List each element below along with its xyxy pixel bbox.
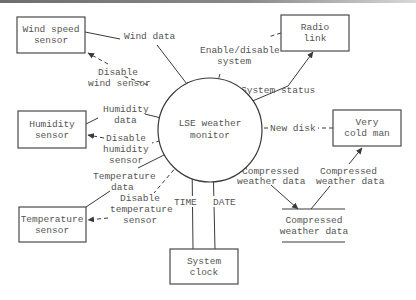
data-store-compressed-weather-data: Compressed weather data	[280, 209, 349, 242]
svg-text:New disk: New disk	[270, 123, 316, 134]
svg-text:sensor: sensor	[34, 35, 68, 46]
svg-text:temperature: temperature	[110, 204, 173, 215]
svg-text:LSE weather: LSE weather	[179, 118, 242, 129]
svg-text:Wind speed: Wind speed	[22, 24, 79, 35]
entity-system-clock: System clock	[170, 249, 238, 284]
svg-text:sensor: sensor	[109, 155, 143, 166]
flow-disable-wind-sensor: Disable wind sensor	[88, 53, 151, 89]
svg-text:weather data: weather data	[237, 176, 306, 187]
svg-text:System: System	[187, 256, 222, 267]
svg-text:Humidity: Humidity	[103, 104, 149, 115]
svg-text:Humidity: Humidity	[29, 119, 75, 130]
svg-text:sensor: sensor	[123, 215, 157, 226]
entity-temperature-sensor: Temperature sensor	[19, 207, 86, 242]
flow-humidity-data: Humidity data	[86, 104, 165, 126]
svg-text:link: link	[304, 33, 327, 44]
svg-text:Disable: Disable	[106, 133, 146, 144]
flow-disable-temperature-sensor: Disable temperature sensor	[88, 159, 183, 226]
data-flow-diagram: Wind data Disable wind sensor Enable/dis…	[0, 0, 416, 300]
svg-text:Radio: Radio	[301, 22, 330, 33]
entity-wind-speed-sensor: Wind speed sensor	[17, 17, 85, 53]
svg-text:system: system	[217, 56, 252, 67]
svg-text:data: data	[111, 182, 134, 193]
svg-text:cold man: cold man	[344, 128, 390, 139]
svg-text:sensor: sensor	[35, 225, 69, 236]
svg-text:sensor: sensor	[35, 130, 69, 141]
svg-text:DATE: DATE	[213, 197, 236, 208]
entity-radio-link: Radio link	[281, 15, 349, 51]
entity-very-cold-man: Very cold man	[333, 110, 401, 146]
svg-text:Temperature: Temperature	[21, 214, 84, 225]
svg-text:humidity: humidity	[103, 144, 149, 155]
svg-text:Compressed: Compressed	[285, 215, 342, 226]
svg-text:Enable/disable: Enable/disable	[200, 45, 280, 56]
process-lse-weather-monitor: LSE weather monitor	[158, 78, 262, 182]
svg-text:monitor: monitor	[190, 130, 230, 141]
svg-text:weather data: weather data	[316, 176, 385, 187]
svg-text:System status: System status	[241, 85, 315, 96]
svg-text:wind sensor: wind sensor	[88, 78, 151, 89]
svg-text:data: data	[114, 115, 137, 126]
svg-text:clock: clock	[190, 267, 219, 278]
svg-text:Temperature: Temperature	[93, 171, 156, 182]
entity-humidity-sensor: Humidity sensor	[18, 111, 86, 148]
svg-text:Disable: Disable	[98, 67, 138, 78]
svg-text:TIME: TIME	[174, 197, 197, 208]
svg-text:Very: Very	[356, 117, 379, 128]
flow-compressed-weather-data-out: Compressed weather data	[311, 148, 385, 209]
svg-text:Wind data: Wind data	[124, 31, 176, 42]
flow-disable-humidity-sensor: Disable humidity sensor	[88, 133, 167, 166]
svg-text:Disable: Disable	[120, 193, 160, 204]
svg-text:weather data: weather data	[280, 226, 349, 237]
